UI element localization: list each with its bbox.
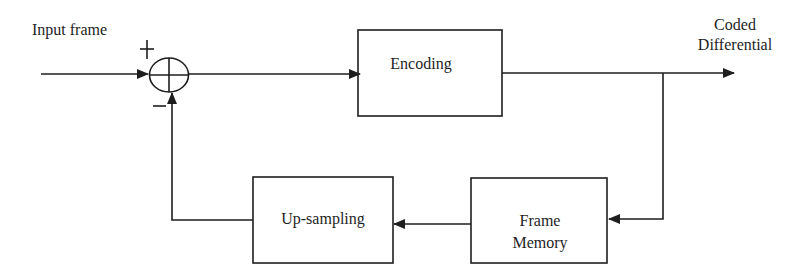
input-label: Input frame xyxy=(32,21,107,39)
encoding-block xyxy=(358,30,502,116)
diagram-canvas xyxy=(0,0,810,279)
upsampling-label: Up-sampling xyxy=(281,210,365,228)
plus-sign-mark xyxy=(140,40,154,59)
feedback-branch-arrow xyxy=(609,73,663,219)
frame-memory-label-line2: Memory xyxy=(512,234,567,252)
encoding-label: Encoding xyxy=(390,55,451,73)
output-label-line2: Differential xyxy=(698,36,772,54)
output-label-line1: Coded xyxy=(714,16,756,34)
upsampling-to-summer-arrow xyxy=(172,93,253,220)
summer-node xyxy=(150,58,189,92)
frame-memory-label-line1: Frame xyxy=(520,212,561,230)
